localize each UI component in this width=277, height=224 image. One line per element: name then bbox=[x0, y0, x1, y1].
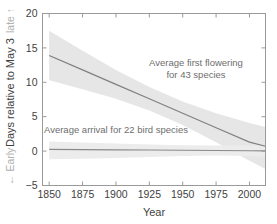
x-tick-label: 1850 bbox=[37, 188, 61, 200]
x-tick-label: 1900 bbox=[104, 188, 128, 200]
x-tick-labels: 1850187519001925195019752000 bbox=[37, 188, 261, 200]
x-tick-label: 1950 bbox=[171, 188, 195, 200]
y-axis-early-marker: ← Early bbox=[4, 147, 16, 185]
annotation-birds-line1: Average arrival for 22 bird species bbox=[44, 124, 188, 135]
x-tick-label: 2000 bbox=[238, 188, 262, 200]
y-axis-title-group: ← Early Days relative to May 3 late ↑ bbox=[4, 8, 16, 185]
y-tick-label: 20 bbox=[26, 7, 38, 19]
x-tick-label: 1975 bbox=[204, 188, 228, 200]
y-tick-label: 15 bbox=[26, 42, 38, 54]
y-tick-label: 10 bbox=[26, 76, 38, 88]
x-tick-label: 1925 bbox=[138, 188, 162, 200]
chart-figure: 1850187519001925195019752000 −505101520 … bbox=[0, 0, 277, 224]
x-tick-label: 1875 bbox=[71, 188, 95, 200]
y-tick-labels: −505101520 bbox=[26, 7, 38, 191]
y-tick-label: 0 bbox=[32, 145, 38, 157]
y-tick-label: −5 bbox=[26, 179, 38, 191]
y-axis-late-marker: late ↑ bbox=[4, 8, 16, 33]
x-axis-title: Year bbox=[143, 206, 166, 218]
y-tick-label: 5 bbox=[32, 110, 38, 122]
annotation-flowering-line2: for 43 species bbox=[166, 69, 225, 80]
chart-canvas: 1850187519001925195019752000 −505101520 … bbox=[0, 0, 277, 224]
y-axis-title: Days relative to May 3 bbox=[4, 38, 16, 147]
annotation-flowering-line1: Average first flowering bbox=[149, 57, 243, 68]
